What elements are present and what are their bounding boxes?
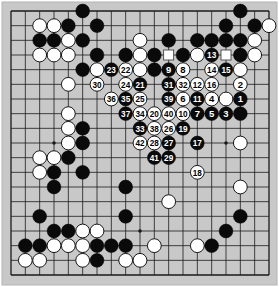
white-stone[interactable]: [76, 239, 90, 253]
white-stone[interactable]: 28: [147, 136, 161, 150]
black-stone[interactable]: [76, 33, 90, 47]
white-stone[interactable]: 42: [133, 136, 147, 150]
white-stone[interactable]: 2: [233, 77, 247, 91]
white-stone[interactable]: [133, 33, 147, 47]
black-stone[interactable]: 33: [133, 121, 147, 135]
black-stone[interactable]: [176, 48, 190, 62]
white-stone[interactable]: [33, 253, 47, 267]
white-stone[interactable]: [190, 48, 204, 62]
black-stone[interactable]: [119, 239, 133, 253]
black-stone[interactable]: [233, 33, 247, 47]
white-stone[interactable]: [61, 77, 75, 91]
black-stone[interactable]: 41: [147, 151, 161, 165]
black-stone[interactable]: [248, 19, 262, 33]
white-stone[interactable]: [133, 48, 147, 62]
black-stone[interactable]: [147, 48, 161, 62]
black-stone[interactable]: [76, 63, 90, 77]
white-stone[interactable]: 32: [176, 77, 190, 91]
white-stone[interactable]: [248, 33, 262, 47]
white-stone[interactable]: 25: [133, 92, 147, 106]
black-stone[interactable]: 31: [162, 77, 176, 91]
white-stone[interactable]: [47, 19, 61, 33]
white-stone[interactable]: [262, 19, 276, 33]
white-stone[interactable]: [190, 239, 204, 253]
white-stone[interactable]: [61, 48, 75, 62]
white-stone[interactable]: 20: [147, 107, 161, 121]
black-stone[interactable]: [90, 19, 104, 33]
black-stone[interactable]: 35: [119, 92, 133, 106]
white-stone[interactable]: [248, 48, 262, 62]
black-stone[interactable]: [205, 239, 219, 253]
black-stone[interactable]: 11: [190, 92, 204, 106]
black-stone[interactable]: 37: [119, 107, 133, 121]
black-stone[interactable]: [219, 19, 233, 33]
white-stone[interactable]: [61, 136, 75, 150]
black-stone[interactable]: 1: [233, 92, 247, 106]
black-stone[interactable]: [61, 151, 75, 165]
white-stone[interactable]: [90, 224, 104, 238]
white-stone[interactable]: [76, 253, 90, 267]
black-stone[interactable]: [47, 224, 61, 238]
white-stone[interactable]: 24: [119, 77, 133, 91]
white-stone[interactable]: [119, 253, 133, 267]
white-stone[interactable]: [61, 33, 75, 47]
black-stone[interactable]: [76, 136, 90, 150]
black-stone[interactable]: [76, 4, 90, 18]
white-stone[interactable]: [61, 239, 75, 253]
black-stone[interactable]: [233, 4, 247, 18]
black-stone[interactable]: [219, 33, 233, 47]
black-stone[interactable]: [47, 165, 61, 179]
black-stone[interactable]: 17: [190, 136, 204, 150]
black-stone[interactable]: 21: [133, 77, 147, 91]
black-stone[interactable]: 3: [219, 107, 233, 121]
white-stone[interactable]: [147, 239, 161, 253]
black-stone[interactable]: [219, 224, 233, 238]
black-stone[interactable]: [233, 48, 247, 62]
black-stone[interactable]: 23: [104, 63, 118, 77]
black-stone[interactable]: [18, 239, 32, 253]
black-stone[interactable]: 7: [190, 107, 204, 121]
black-stone[interactable]: 19: [176, 121, 190, 135]
black-stone[interactable]: [47, 180, 61, 194]
black-stone[interactable]: 15: [219, 63, 233, 77]
white-stone[interactable]: [90, 63, 104, 77]
white-stone[interactable]: [133, 63, 147, 77]
white-stone[interactable]: [233, 63, 247, 77]
white-stone[interactable]: 34: [133, 107, 147, 121]
black-stone[interactable]: [90, 253, 104, 267]
white-stone[interactable]: [33, 19, 47, 33]
black-stone[interactable]: [90, 48, 104, 62]
black-stone[interactable]: [33, 33, 47, 47]
black-stone[interactable]: [76, 121, 90, 135]
white-stone[interactable]: 4: [205, 92, 219, 106]
black-stone[interactable]: [61, 224, 75, 238]
black-stone[interactable]: [33, 209, 47, 223]
white-stone[interactable]: [233, 180, 247, 194]
white-stone[interactable]: [61, 107, 75, 121]
go-board[interactable]: 1323229814153024213132121623635253961141…: [0, 0, 279, 287]
black-stone[interactable]: [47, 33, 61, 47]
white-stone[interactable]: [76, 224, 90, 238]
white-stone[interactable]: [33, 151, 47, 165]
white-stone[interactable]: [233, 136, 247, 150]
white-stone[interactable]: 18: [190, 165, 204, 179]
white-stone[interactable]: 26: [162, 121, 176, 135]
black-stone[interactable]: 39: [162, 92, 176, 106]
white-stone[interactable]: [18, 253, 32, 267]
white-stone[interactable]: [133, 253, 147, 267]
black-stone[interactable]: [205, 33, 219, 47]
black-stone[interactable]: 5: [205, 107, 219, 121]
white-stone[interactable]: 30: [90, 77, 104, 91]
black-stone[interactable]: [119, 180, 133, 194]
black-stone[interactable]: 9: [162, 63, 176, 77]
black-stone[interactable]: [33, 239, 47, 253]
go-board-svg[interactable]: 1323229814153024213132121623635253961141…: [0, 0, 279, 287]
black-stone[interactable]: [119, 48, 133, 62]
white-stone[interactable]: 14: [205, 63, 219, 77]
white-stone[interactable]: 36: [104, 92, 118, 106]
black-stone[interactable]: 13: [205, 48, 219, 62]
white-stone[interactable]: 12: [190, 77, 204, 91]
white-stone[interactable]: 38: [147, 121, 161, 135]
white-stone[interactable]: 8: [176, 63, 190, 77]
white-stone[interactable]: [61, 121, 75, 135]
